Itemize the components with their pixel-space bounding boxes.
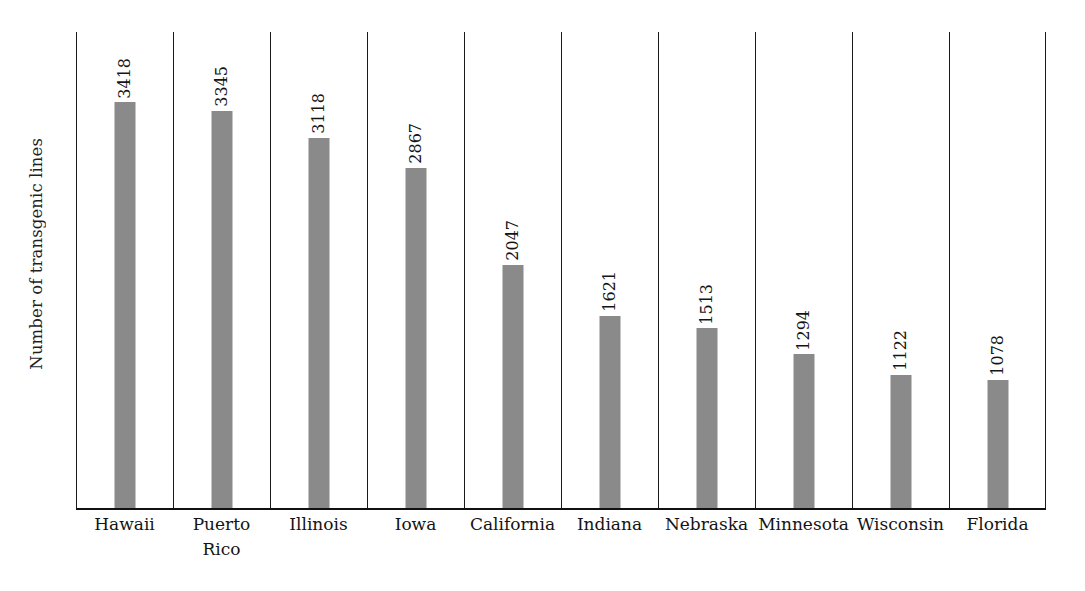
y-axis-title: Number of transgenic lines xyxy=(0,0,72,508)
bar[interactable] xyxy=(890,375,911,508)
bar-value-label: 1122 xyxy=(890,319,912,371)
x-axis-tick-label-line1: Florida xyxy=(966,514,1028,534)
x-axis-tick-labels: HawaiiPuertoRicoIllinoisIowaCaliforniaIn… xyxy=(76,512,1046,587)
plot-area: 3418334531182867204716211513129411221078 xyxy=(76,32,1046,508)
bar-value-label: 1621 xyxy=(599,260,621,312)
bar-value-label: 2867 xyxy=(405,112,427,164)
category-separator-line xyxy=(852,32,853,508)
bar[interactable] xyxy=(211,111,232,508)
bar-value-label: 1513 xyxy=(696,272,718,324)
category-separator-line xyxy=(949,32,950,508)
x-axis-tick-label-line1: Puerto xyxy=(193,514,251,534)
bar-value-text: 3418 xyxy=(117,58,133,99)
category-separator-line xyxy=(464,32,465,508)
bar-value-label: 1078 xyxy=(987,324,1009,376)
bar-value-text: 2867 xyxy=(408,123,424,164)
category-cell: 2867 xyxy=(367,32,464,508)
bar-value-text: 1294 xyxy=(796,310,812,351)
category-cell: 1513 xyxy=(658,32,755,508)
bar-value-label: 1294 xyxy=(793,298,815,350)
plot-right-edge-line xyxy=(1045,32,1046,508)
x-axis-tick-label-line1: California xyxy=(470,514,555,534)
x-axis-tick-label-line1: Minnesota xyxy=(758,514,849,534)
x-axis-tick-label-line1: Wisconsin xyxy=(857,514,944,534)
bar-value-label: 3418 xyxy=(114,46,136,98)
category-separator-line xyxy=(658,32,659,508)
category-cell: 1294 xyxy=(755,32,852,508)
category-separator-line xyxy=(561,32,562,508)
bar[interactable] xyxy=(114,102,135,508)
x-axis-tick-label: Iowa xyxy=(367,512,464,537)
category-separator-line xyxy=(755,32,756,508)
x-axis-tick-label-line1: Illinois xyxy=(289,514,347,534)
category-separator-line xyxy=(76,32,77,508)
bar-value-text: 1122 xyxy=(893,330,909,371)
category-cell: 3345 xyxy=(173,32,270,508)
bar-value-text: 3345 xyxy=(214,66,230,107)
category-cell: 2047 xyxy=(464,32,561,508)
category-cell: 1122 xyxy=(852,32,949,508)
x-axis-tick-label-line1: Nebraska xyxy=(665,514,748,534)
category-cell: 1078 xyxy=(949,32,1046,508)
bar-value-text: 1621 xyxy=(602,271,618,312)
bar-value-label: 3118 xyxy=(308,82,330,134)
y-axis-title-label: Number of transgenic lines xyxy=(27,138,46,370)
bar[interactable] xyxy=(502,265,523,508)
bar[interactable] xyxy=(696,328,717,508)
x-axis-tick-label-line1: Indiana xyxy=(577,514,642,534)
bar-value-text: 1078 xyxy=(990,335,1006,376)
x-axis-tick-label: PuertoRico xyxy=(173,512,270,562)
bar[interactable] xyxy=(987,380,1008,508)
x-axis-tick-label: Nebraska xyxy=(658,512,755,537)
bar-value-text: 2047 xyxy=(505,220,521,261)
category-cell: 3418 xyxy=(76,32,173,508)
x-axis-tick-label: Indiana xyxy=(561,512,658,537)
category-separator-line xyxy=(367,32,368,508)
bar-chart: Number of transgenic lines 3418334531182… xyxy=(0,0,1085,591)
bar[interactable] xyxy=(308,138,329,508)
x-axis-tick-label-line2: Rico xyxy=(173,537,270,562)
bar-value-text: 3118 xyxy=(311,93,327,134)
category-cell: 3118 xyxy=(270,32,367,508)
x-axis-tick-label: Illinois xyxy=(270,512,367,537)
bar-value-label: 2047 xyxy=(502,209,524,261)
category-separator-line xyxy=(270,32,271,508)
x-axis-tick-label-line1: Iowa xyxy=(395,514,437,534)
bar[interactable] xyxy=(405,168,426,508)
x-axis-line xyxy=(76,508,1046,510)
x-axis-tick-label: Minnesota xyxy=(755,512,852,537)
x-axis-tick-label: Florida xyxy=(949,512,1046,537)
bar-value-text: 1513 xyxy=(699,284,715,325)
x-axis-tick-label-line1: Hawaii xyxy=(94,514,155,534)
bar-value-label: 3345 xyxy=(211,55,233,107)
category-separator-line xyxy=(173,32,174,508)
category-cell: 1621 xyxy=(561,32,658,508)
bar[interactable] xyxy=(599,316,620,508)
x-axis-tick-label: California xyxy=(464,512,561,537)
x-axis-tick-label: Hawaii xyxy=(76,512,173,537)
bar[interactable] xyxy=(793,354,814,508)
x-axis-tick-label: Wisconsin xyxy=(852,512,949,537)
